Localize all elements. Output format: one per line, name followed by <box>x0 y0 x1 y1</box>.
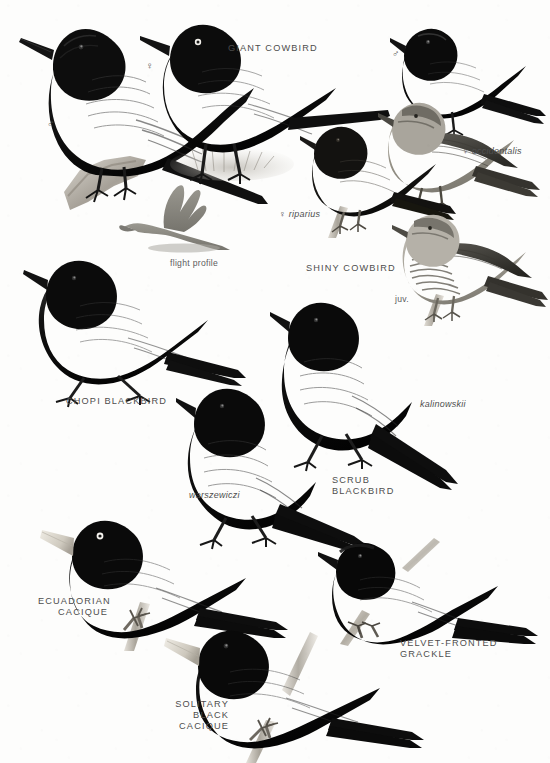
field-guide-plate: GIANT COWBIRD ♂ ♀ flight profile SHINY C… <box>0 0 550 763</box>
head <box>288 303 359 371</box>
label-giant-cowbird-male-symbol: ♂ <box>47 118 55 130</box>
label-flight-profile: flight profile <box>170 258 218 268</box>
bill <box>270 312 290 332</box>
bill <box>300 136 316 150</box>
head <box>170 25 241 93</box>
grass-tuft <box>170 147 294 181</box>
legs <box>358 626 378 638</box>
label-ecuadorian-cacique: ECUADORIAN CACIQUE <box>38 596 108 618</box>
bill <box>140 36 170 56</box>
label-juvenile: juv. <box>395 294 409 304</box>
label-giant-cowbird: GIANT COWBIRD <box>228 43 318 54</box>
label-shiny-cowbird-male-symbol: ♂ <box>392 48 400 60</box>
label-shiny-cowbird: SHINY COWBIRD <box>306 263 396 274</box>
perch-stem <box>328 206 348 238</box>
label-chopi-blackbird: CHOPI BLACKBIRD <box>66 396 167 407</box>
label-solitary-black-cacique: SOLITARY BLACK CACIQUE <box>140 699 229 733</box>
head <box>46 261 117 329</box>
label-giant-cowbird-female-symbol: ♀ <box>146 60 154 72</box>
bill <box>40 530 74 556</box>
bill <box>318 552 338 570</box>
bill <box>19 38 54 60</box>
eye <box>428 226 432 230</box>
head <box>53 29 126 101</box>
label-occidentalis: ♀ occidentalis <box>462 146 522 157</box>
bill <box>23 270 48 290</box>
head <box>194 389 265 457</box>
bird-flight-profile <box>118 182 238 262</box>
perch-stem <box>282 632 318 696</box>
head <box>198 631 269 699</box>
head <box>72 521 143 589</box>
label-riparius: ♀ riparius <box>279 209 320 220</box>
perch-twig <box>402 538 440 572</box>
label-velvet-fronted-grackle: VELVET-FRONTED GRACKLE <box>400 638 498 660</box>
bill <box>176 398 196 418</box>
label-scrub-blackbird: SCRUB BLACKBIRD <box>332 475 394 497</box>
head <box>336 543 395 600</box>
label-warszewiczi: warszewiczi <box>189 490 240 501</box>
label-kalinowskii: kalinowskii <box>420 399 466 410</box>
bill <box>392 225 408 238</box>
wing <box>164 185 207 232</box>
